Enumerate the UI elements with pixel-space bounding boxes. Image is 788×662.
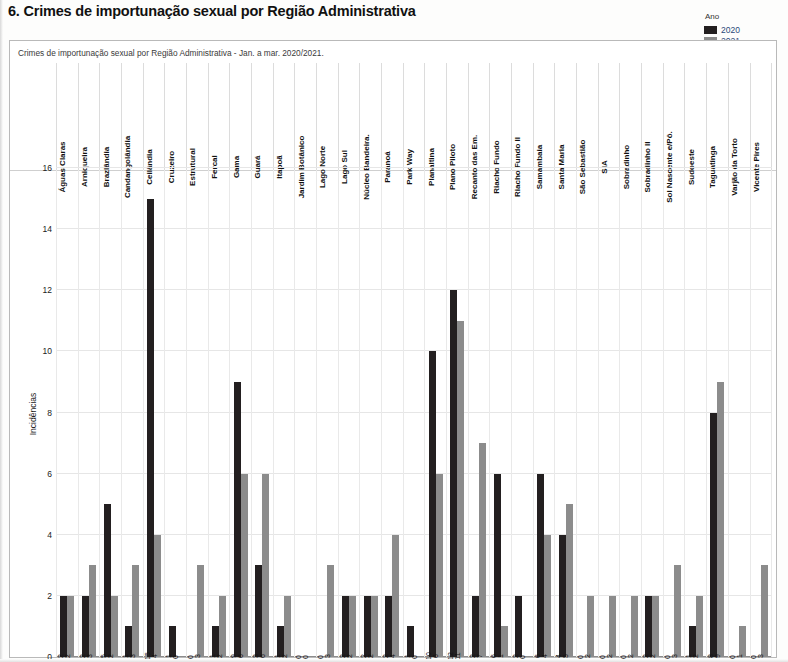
bar-2021[interactable]: 2 [609, 596, 616, 657]
bar-group[interactable]: 01 [729, 170, 751, 657]
bar-group[interactable]: 154 [144, 170, 166, 657]
bar-group[interactable]: 12 [685, 170, 707, 657]
bar-2020[interactable]: 2 [60, 596, 67, 657]
bar-group[interactable]: 03 [317, 170, 339, 657]
bar-2020[interactable]: 12 [450, 290, 457, 657]
bar-2021[interactable]: 1 [739, 626, 746, 657]
bar-2021[interactable]: 7 [479, 443, 486, 657]
bar-group[interactable]: 03 [187, 170, 209, 657]
bar-2020[interactable]: 2 [515, 596, 522, 657]
bar-2020[interactable]: 2 [385, 596, 392, 657]
bar-group[interactable]: 13 [122, 170, 144, 657]
bar-2021[interactable]: 2 [587, 596, 594, 657]
bar-group[interactable]: 02 [620, 170, 642, 657]
bar-2021[interactable]: 9 [717, 382, 724, 657]
legend-label-2020: 2020 [721, 25, 740, 35]
bar-value-label: 4 [151, 654, 158, 658]
category-axis-tick: Varjão da Torto [729, 63, 751, 170]
bar-2021[interactable]: 2 [284, 596, 291, 657]
bar-group[interactable]: 03 [664, 170, 686, 657]
bar-group[interactable]: 10 [404, 170, 426, 657]
bar-2020[interactable]: 4 [559, 535, 566, 657]
bar-2021[interactable]: 1 [501, 626, 508, 657]
category-axis-tick: Riacho Fundo II [512, 63, 534, 170]
bar-group[interactable]: 22 [339, 170, 361, 657]
bar-value-label: 6 [432, 654, 439, 658]
bar-2021[interactable]: 3 [761, 565, 768, 657]
bar-group[interactable]: 23 [79, 170, 101, 657]
bar-2021[interactable]: 2 [349, 596, 356, 657]
bar-2020[interactable]: 1 [689, 626, 696, 657]
bar-2021[interactable]: 3 [327, 565, 334, 657]
bar-value-label: 1 [404, 654, 411, 658]
bar-2020[interactable]: 2 [645, 596, 652, 657]
legend-title: Ano [704, 12, 774, 21]
bar-2021[interactable]: 2 [219, 596, 226, 657]
bar-2021[interactable]: 11 [457, 321, 464, 657]
bar-group[interactable]: 10 [165, 170, 187, 657]
bar-2021[interactable]: 2 [111, 596, 118, 657]
category-axis-tick: Lago Norte [317, 63, 339, 170]
category-axis-tick: Samambaia [534, 63, 556, 170]
bar-group[interactable]: 1211 [447, 170, 469, 657]
bar-2021[interactable]: 4 [544, 535, 551, 657]
bar-group[interactable]: 02 [599, 170, 621, 657]
bar-group[interactable]: 20 [512, 170, 534, 657]
bar-group[interactable]: 96 [230, 170, 252, 657]
bar-group[interactable]: 22 [360, 170, 382, 657]
bar-group[interactable]: 36 [252, 170, 274, 657]
bar-2021[interactable]: 5 [566, 504, 573, 657]
bar-2020[interactable]: 5 [104, 504, 111, 657]
bar-group[interactable]: 45 [555, 170, 577, 657]
bar-group[interactable]: 03 [751, 170, 773, 657]
bar-group[interactable]: 22 [56, 170, 79, 657]
bar-group[interactable]: 89 [707, 170, 729, 657]
bar-2021[interactable]: 2 [371, 596, 378, 657]
bar-group[interactable]: 12 [209, 170, 231, 657]
bar-2020[interactable]: 1 [212, 626, 219, 657]
bar-group[interactable]: 27 [469, 170, 491, 657]
bar-2021[interactable]: 6 [262, 474, 269, 657]
bar-value-label: 4 [389, 654, 396, 658]
bar-2021[interactable]: 2 [652, 596, 659, 657]
bar-group[interactable]: 02 [577, 170, 599, 657]
bar-2020[interactable]: 1 [277, 626, 284, 657]
bar-group[interactable]: 24 [382, 170, 404, 657]
bar-2021[interactable]: 3 [197, 565, 204, 657]
bar-2021[interactable]: 6 [241, 474, 248, 657]
bar-2021[interactable]: 3 [132, 565, 139, 657]
bar-2020[interactable]: 2 [472, 596, 479, 657]
category-axis-tick: Taguatinga [707, 63, 729, 170]
bar-2020[interactable]: 6 [494, 474, 501, 657]
bar-2021[interactable]: 2 [67, 596, 74, 657]
category-axis-tick: Gama [230, 63, 252, 170]
bar-group[interactable]: 00 [295, 170, 317, 657]
bar-2020[interactable]: 2 [364, 596, 371, 657]
bar-group[interactable]: 106 [425, 170, 447, 657]
bar-group[interactable]: 61 [490, 170, 512, 657]
bar-2021[interactable]: 3 [89, 565, 96, 657]
bar-group[interactable]: 52 [100, 170, 122, 657]
bar-2020[interactable]: 1 [169, 626, 176, 657]
bar-2020[interactable]: 1 [407, 626, 414, 657]
bar-2021[interactable]: 6 [436, 474, 443, 657]
bar-group[interactable]: 22 [642, 170, 664, 657]
bar-2020[interactable]: 1 [125, 626, 132, 657]
bar-2020[interactable]: 9 [234, 382, 241, 657]
bar-2021[interactable]: 2 [631, 596, 638, 657]
bar-2020[interactable]: 8 [710, 413, 717, 658]
bar-2020[interactable]: 6 [537, 474, 544, 657]
bar-2021[interactable]: 4 [392, 535, 399, 657]
bar-2020[interactable]: 10 [429, 351, 436, 657]
bar-2020[interactable]: 15 [147, 199, 154, 657]
bar-2020[interactable]: 2 [342, 596, 349, 657]
bar-group[interactable]: 64 [534, 170, 556, 657]
bar-2021[interactable]: 4 [154, 535, 161, 657]
bar-group[interactable]: 12 [274, 170, 296, 657]
y-axis-tick-label: 16 [43, 163, 52, 173]
bar-2021[interactable]: 3 [674, 565, 681, 657]
bar-2020[interactable]: 2 [82, 596, 89, 657]
bar-2020[interactable]: 3 [255, 565, 262, 657]
bar-value-label: 3 [757, 654, 764, 658]
bar-2021[interactable]: 2 [696, 596, 703, 657]
